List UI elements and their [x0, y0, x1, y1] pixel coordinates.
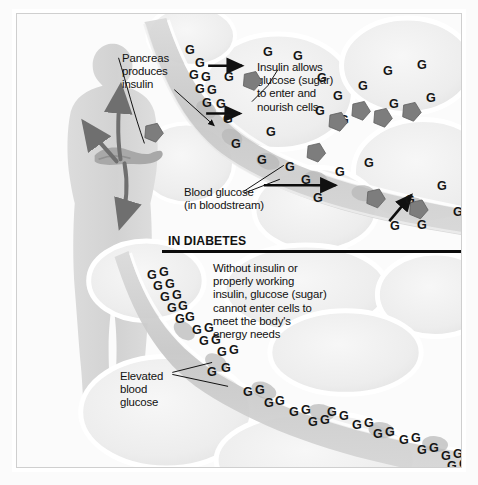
insulin-molecule: [367, 189, 386, 208]
diagram-frame: Pancreas produces insulin Insulin allows…: [16, 13, 462, 468]
insulin-molecule: [403, 102, 422, 121]
insulin-molecule-layer: [17, 14, 461, 467]
insulin-molecule: [145, 123, 164, 142]
insulin-molecule: [243, 72, 262, 91]
insulin-molecule: [410, 200, 429, 219]
diagram-page: Pancreas produces insulin Insulin allows…: [0, 0, 478, 485]
insulin-molecule: [374, 108, 393, 127]
insulin-molecule: [307, 143, 326, 162]
insulin-molecule: [352, 101, 371, 120]
insulin-molecule: [329, 112, 348, 131]
diagram-canvas: Pancreas produces insulin Insulin allows…: [17, 14, 461, 467]
